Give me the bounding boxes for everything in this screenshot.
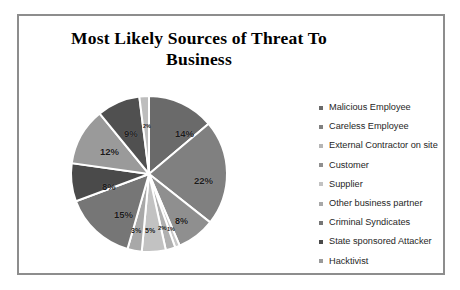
pie-chart: 14% 22% 8% 1% 2% 5% 3% 15% 8% 12% 9% 2% — [57, 84, 242, 264]
legend-item[interactable]: External Contractor on site — [319, 136, 459, 155]
pie-label-15: 15% — [114, 209, 133, 220]
legend-item-label: External Contractor on site — [329, 140, 438, 151]
legend-item[interactable]: State sponsored Attacker — [319, 232, 459, 251]
pie-label-8-lower: 8% — [175, 216, 188, 226]
pie-label-9: 9% — [124, 128, 138, 139]
legend-item-label: State sponsored Attacker — [329, 236, 432, 247]
legend-item[interactable]: Criminal Syndicates — [319, 213, 459, 232]
pie-label-5: 5% — [145, 227, 155, 234]
legend-swatch-icon — [319, 202, 323, 206]
chart-frame: Most Likely Sources of Threat To Busines… — [17, 14, 445, 275]
pie-label-22: 22% — [194, 175, 213, 186]
legend-swatch-icon — [319, 240, 323, 244]
legend-item[interactable]: Other business partner — [319, 194, 459, 213]
chart-title: Most Likely Sources of Threat To Busines… — [49, 28, 349, 70]
chart-legend: Malicious EmployeeCareless EmployeeExter… — [319, 98, 459, 271]
legend-item-label: Customer — [329, 160, 369, 171]
pie-label-2-bottom: 2% — [158, 225, 167, 231]
chart-title-line-1: Most Likely Sources of Threat To — [49, 28, 349, 49]
legend-swatch-icon — [319, 163, 323, 167]
legend-swatch-icon — [319, 106, 323, 110]
pie-label-3: 3% — [131, 227, 141, 234]
legend-swatch-icon — [319, 144, 323, 148]
legend-swatch-icon — [319, 125, 323, 129]
pie-label-1: 1% — [167, 226, 175, 232]
legend-item-label: Other business partner — [329, 198, 422, 209]
pie-label-12: 12% — [100, 146, 119, 157]
legend-item-label: Criminal Syndicates — [329, 217, 410, 228]
pie-label-14: 14% — [175, 128, 194, 139]
legend-item[interactable]: Malicious Employee — [319, 98, 459, 117]
pie-chart-svg — [57, 84, 242, 264]
legend-item[interactable]: Customer — [319, 156, 459, 175]
pie-label-2-top: 2% — [143, 123, 151, 129]
legend-swatch-icon — [319, 182, 323, 186]
legend-item[interactable]: Careless Employee — [319, 117, 459, 136]
legend-swatch-icon — [319, 221, 323, 225]
legend-item-label: Supplier — [329, 179, 363, 190]
legend-item-label: Malicious Employee — [329, 102, 411, 113]
legend-item[interactable]: Hacktivist — [319, 252, 459, 271]
chart-title-line-2: Business — [49, 49, 349, 70]
legend-swatch-icon — [319, 259, 323, 263]
legend-item-label: Careless Employee — [329, 121, 409, 132]
legend-item-label: Hacktivist — [329, 256, 368, 267]
legend-item[interactable]: Supplier — [319, 175, 459, 194]
pie-label-8-left: 8% — [102, 181, 116, 192]
